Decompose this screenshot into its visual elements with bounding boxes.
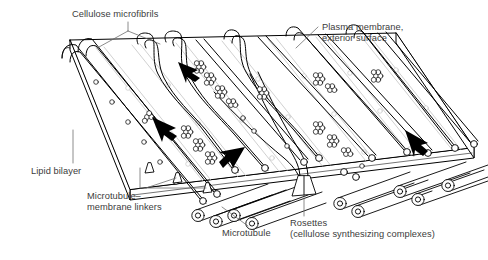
label-microtubule: Microtubule <box>222 228 271 239</box>
figure-canvas: Cellulose microfibrils Plasma membrane, … <box>0 0 488 260</box>
label-microtubule-membrane-linkers: Microtubule– membrane linkers <box>87 191 162 213</box>
label-rosettes: Rosettes (cellulose synthesizing complex… <box>290 218 435 240</box>
label-cellulose-microfibrils: Cellulose microfibrils <box>72 9 158 20</box>
plasma-membrane-slab <box>70 33 474 200</box>
label-plasma-membrane: Plasma membrane, exterior surface <box>322 22 403 44</box>
label-lipid-bilayer: Lipid bilayer <box>31 166 81 177</box>
